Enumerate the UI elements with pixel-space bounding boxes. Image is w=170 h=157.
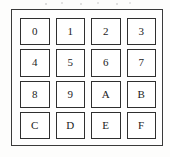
keypad-key-c[interactable]: C [20, 112, 50, 139]
keypad-key-8[interactable]: 8 [20, 81, 50, 108]
keypad-key-6[interactable]: 6 [91, 49, 121, 76]
keypad-key-label: F [138, 119, 144, 130]
keypad-key-grid: 0 1 2 3 4 5 6 7 8 [20, 18, 156, 139]
keypad-key-0[interactable]: 0 [20, 18, 50, 45]
keypad-key-label: 7 [138, 57, 144, 68]
keypad-key-7[interactable]: 7 [127, 49, 157, 76]
keypad-key-4[interactable]: 4 [20, 49, 50, 76]
keypad-key-label: E [102, 119, 109, 130]
keypad-key-label: 1 [67, 26, 73, 37]
scan-artifact [40, 2, 136, 6]
keypad-key-label: 6 [103, 57, 109, 68]
keypad-key-label: D [66, 119, 74, 130]
keypad-key-label: A [102, 88, 110, 99]
keypad-key-label: C [31, 119, 39, 130]
keypad-key-2[interactable]: 2 [91, 18, 121, 45]
keypad-key-a[interactable]: A [91, 81, 121, 108]
keypad-key-label: 8 [32, 88, 38, 99]
keypad-key-label: 3 [138, 26, 144, 37]
keypad-key-label: 5 [67, 57, 73, 68]
keypad-key-label: 0 [32, 26, 38, 37]
keypad-key-b[interactable]: B [127, 81, 157, 108]
keypad-enclosure: 0 1 2 3 4 5 6 7 8 [11, 9, 163, 146]
hexadecimal-keypad-figure: 0 1 2 3 4 5 6 7 8 [0, 0, 170, 157]
keypad-key-label: B [137, 88, 145, 99]
keypad-key-1[interactable]: 1 [56, 18, 86, 45]
keypad-key-f[interactable]: F [127, 112, 157, 139]
keypad-key-9[interactable]: 9 [56, 81, 86, 108]
keypad-key-5[interactable]: 5 [56, 49, 86, 76]
keypad-key-3[interactable]: 3 [127, 18, 157, 45]
keypad-key-label: 9 [67, 88, 73, 99]
keypad-key-label: 2 [103, 26, 109, 37]
keypad-key-d[interactable]: D [56, 112, 86, 139]
keypad-key-label: 4 [32, 57, 38, 68]
keypad-key-e[interactable]: E [91, 112, 121, 139]
